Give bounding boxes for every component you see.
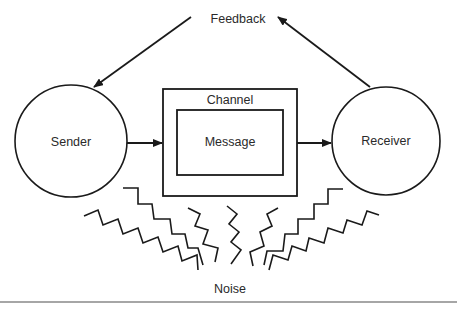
noise-wave-left-inner	[123, 188, 203, 265]
noise-label: Noise	[214, 282, 246, 296]
noise-wave-center-right	[250, 208, 278, 266]
noise-wave-left-outer	[84, 210, 198, 270]
feedback-label: Feedback	[211, 12, 266, 26]
receiver-to-feedback-arrow	[278, 17, 370, 87]
sender-label: Sender	[51, 135, 91, 149]
receiver-label: Receiver	[361, 134, 410, 148]
noise-wave-center-left	[188, 208, 218, 262]
noise-wave-right-outer	[269, 211, 379, 270]
noise-wave-right-inner	[264, 189, 343, 265]
noise-wave-center	[227, 206, 241, 264]
diagram-graphics	[0, 0, 457, 310]
feedback-to-sender-arrow	[94, 17, 191, 87]
noise-waves	[84, 188, 379, 270]
message-label: Message	[205, 135, 256, 149]
channel-label: Channel	[207, 93, 254, 107]
communication-diagram: Feedback Sender Receiver Channel Message…	[0, 0, 457, 310]
